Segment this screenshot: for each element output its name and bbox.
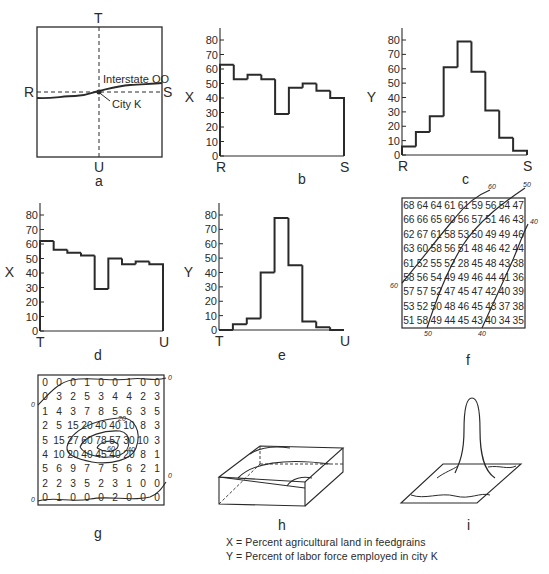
y-axis-label: X [185,89,195,105]
grid-cell: 0 [42,377,48,388]
grid-cell: 58 [417,315,429,326]
histogram-bin [149,261,163,331]
histogram-bin [275,218,289,273]
y-tick-label: 70 [205,223,217,235]
grid-cell: 5 [154,406,160,417]
city-label: City K [112,98,142,110]
grid-cell: 15 [67,420,79,431]
grid-cell: 46 [499,214,511,225]
grid-cell: 2 [98,478,104,489]
grid-cell: 2 [42,478,48,489]
histogram-bin [302,265,316,321]
label-s: S [163,84,172,100]
y-tick-label: 80 [26,209,38,221]
grid-cell: 3 [112,478,118,489]
grid-cell: 58 [444,229,456,240]
grid-cell: 61 [430,229,442,240]
grid-cell: 39 [512,286,524,297]
y-tick-label: 60 [388,63,400,75]
grid-cell: 15 [53,435,65,446]
y-tick-label: 80 [205,209,217,221]
grid-cell: 47 [444,286,456,297]
grid-cell: 0 [70,377,76,388]
histogram-bin [303,84,317,88]
grid-cell: 46 [512,229,524,240]
histogram-bin [430,116,444,132]
histogram-bin [261,273,275,319]
y-tick-label: 20 [206,121,218,133]
grid-cell: 1 [154,463,160,474]
y-tick-label: 40 [26,267,38,279]
grid-cell: 49 [485,229,497,240]
grid-cell: 8 [140,449,146,460]
contour-line [250,447,290,454]
y-tick-label: 30 [388,106,400,118]
y-tick-label: 80 [388,34,400,46]
grid-cell: 56 [444,243,456,254]
histogram-bin [247,319,261,325]
grid-cell: 38 [512,258,524,269]
grid-cell: 3 [140,406,146,417]
grid-cell: 53 [403,301,415,312]
contour-label: 50 [424,330,432,337]
grid-cell: 57 [109,435,121,446]
grid-cell: 55 [430,258,442,269]
histogram-bin [108,259,122,289]
histogram-bin [40,241,54,331]
grid-cell: 5 [42,435,48,446]
histogram-bin [95,256,109,289]
grid-cell: 10 [137,435,149,446]
grid-cell: 3 [70,406,76,417]
grid-cell: 9 [70,463,76,474]
histogram-bin [316,84,330,91]
grid-cell: 49 [499,229,511,240]
grid-cell: 43 [512,214,524,225]
histogram-bin [402,146,416,155]
grid-cell: 54 [430,272,442,283]
caption-f: f [466,352,470,368]
grid-cell: 4 [126,391,132,402]
grid-cell: 43 [499,258,511,269]
grid-cell: 6 [126,406,132,417]
grid-cell: 0 [126,492,132,503]
grid-cell: 28 [458,258,470,269]
grid-cell: 64 [430,200,442,211]
contour-label: 0 [31,496,35,503]
histogram-bin [54,241,68,250]
grid-cell: 3 [154,391,160,402]
grid-cell: 0 [154,377,160,388]
grid-cell: 46 [471,272,483,283]
histogram-bin [485,72,499,111]
histogram-bin [288,218,302,265]
histogram-bin [513,138,527,155]
grid-cell: 2 [70,391,76,402]
grid-cell: 6 [56,463,62,474]
grid-cell: 47 [471,286,483,297]
hidden-edge [219,464,260,504]
grid-cell: 45 [458,315,470,326]
grid-cell: 37 [499,301,511,312]
grid-cell: 68 [403,200,415,211]
grid-cell: 2 [140,463,146,474]
grid-cell: 42 [499,243,511,254]
label-r: R [24,84,34,100]
histogram-bin [416,132,430,146]
peak-profile [455,398,495,478]
grid-cell: 7 [84,406,90,417]
grid-cell: 62 [403,229,415,240]
grid-cell: 7 [98,463,104,474]
road-label: Interstate OO [103,73,169,85]
x-start-label: R [398,158,408,174]
y-tick-label: 70 [26,224,38,236]
grid-cell: 0 [42,391,48,402]
grid-cell: 48 [471,243,483,254]
histogram-bin [471,41,485,71]
grid-cell: 6 [126,463,132,474]
y-tick-label: 50 [206,78,218,90]
y-tick-label: 40 [206,92,218,104]
panel-e: 01020304050607080YTUe [184,203,350,363]
y-tick-label: 60 [206,63,218,75]
y-tick-label: 20 [205,295,217,307]
contour-label: 40 [530,218,538,225]
histogram-bin [136,261,150,264]
